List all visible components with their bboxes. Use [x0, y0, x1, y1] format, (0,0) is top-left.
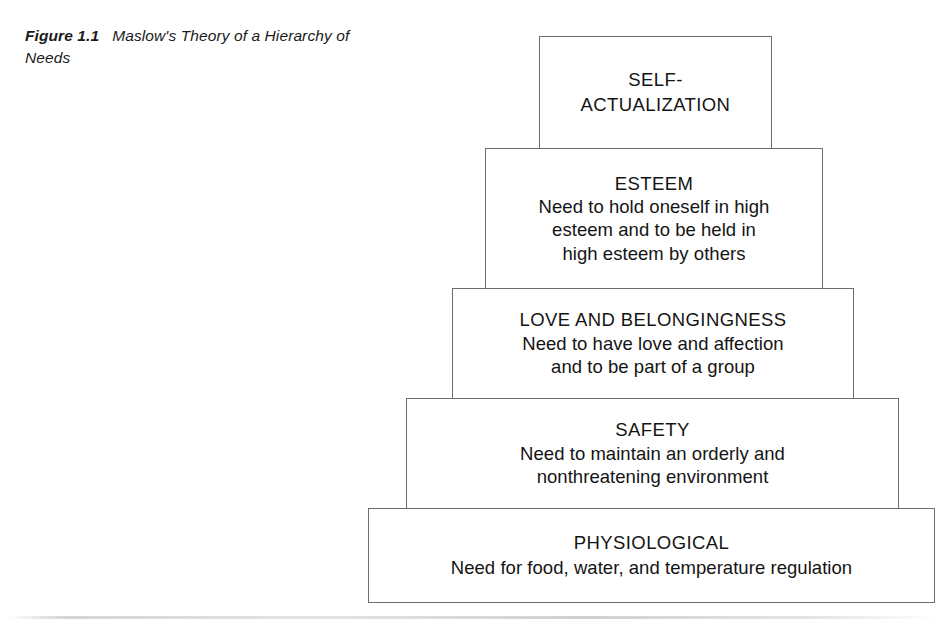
tier-title-love-and-belongingness: LOVE AND BELONGINGNESS: [520, 308, 787, 331]
maslow-hierarchy-pyramid: SELF- ACTUALIZATION ESTEEM Need to hold …: [0, 0, 947, 622]
pyramid-tier-physiological: PHYSIOLOGICAL Need for food, water, and …: [368, 508, 935, 603]
pyramid-tier-esteem: ESTEEM Need to hold oneself in high este…: [485, 148, 823, 289]
tier-title-physiological: PHYSIOLOGICAL: [574, 531, 729, 554]
pyramid-tier-safety: SAFETY Need to maintain an orderly and n…: [406, 398, 899, 509]
pyramid-tier-self-actualization: SELF- ACTUALIZATION: [539, 36, 772, 149]
tier-title-esteem: ESTEEM: [615, 172, 693, 195]
tier-body-physiological: Need for food, water, and temperature re…: [451, 556, 852, 579]
tier-body-esteem: Need to hold oneself in high esteem and …: [539, 195, 770, 265]
tier-body-safety: Need to maintain an orderly and nonthrea…: [520, 442, 785, 489]
scan-artifact-line: [8, 616, 938, 619]
pyramid-tier-love-and-belongingness: LOVE AND BELONGINGNESS Need to have love…: [452, 288, 854, 399]
tier-body-love-and-belongingness: Need to have love and affection and to b…: [522, 332, 783, 379]
tier-title-self-actualization: SELF- ACTUALIZATION: [581, 68, 731, 117]
tier-title-safety: SAFETY: [615, 418, 689, 441]
